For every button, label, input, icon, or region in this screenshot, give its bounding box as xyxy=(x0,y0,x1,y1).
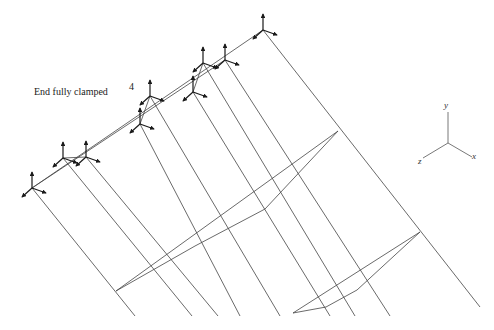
diagonal-members xyxy=(32,30,480,316)
top-chords xyxy=(32,30,263,188)
axis-y-label: y xyxy=(444,100,448,110)
triad-node-8 xyxy=(215,44,239,69)
coordinate-axes-icon xyxy=(423,112,472,158)
end-clamped-label: End fully clamped xyxy=(34,86,108,97)
triad-node-7 xyxy=(193,47,217,72)
triad-node-2 xyxy=(53,142,77,167)
triad-node-9 xyxy=(253,14,277,39)
triad-node-3 xyxy=(76,141,100,166)
node-number-label: 4 xyxy=(129,81,134,92)
triad-node-1 xyxy=(22,172,46,197)
axis-z-label: z xyxy=(418,156,422,166)
triad-node-5 xyxy=(140,80,164,105)
axis-x-label: x xyxy=(472,151,476,161)
lower-bracing xyxy=(116,131,420,313)
